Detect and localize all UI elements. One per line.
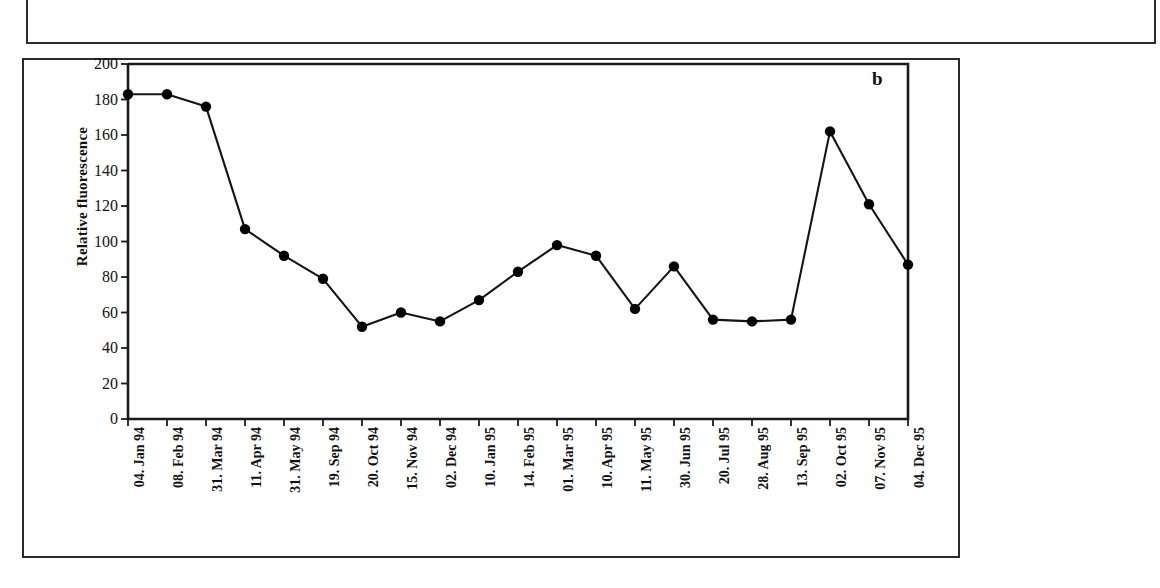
x-axis-tick-label: 02. Dec 94: [446, 427, 458, 537]
x-axis-tick-label: 30. Jun 95: [680, 427, 692, 537]
x-axis-tick-label: 14. Feb 95: [524, 427, 536, 537]
x-axis-tick-label: 13. Sep 95: [797, 427, 809, 537]
x-axis-tick-label: 15. Nov 94: [407, 427, 419, 537]
x-axis-tick-label: 19. Sep 94: [329, 427, 341, 537]
x-axis-tick-label: 01. Mar 95: [563, 427, 575, 537]
x-axis-tick-label: 10. Jan 95: [485, 427, 497, 537]
x-axis-tick-label: 20. Oct 94: [368, 427, 380, 537]
x-axis-tick-label: 28. Aug 95: [758, 427, 770, 537]
x-axis-tick-label: 11. Apr 94: [251, 427, 263, 537]
x-axis-tick-label: 04. Dec 95: [914, 427, 926, 537]
x-axis-tick-label: 31. May 94: [290, 427, 302, 537]
panel-letter-label: b: [872, 68, 883, 90]
x-axis-tick-label: 31. Mar 94: [212, 427, 224, 537]
x-axis-tick-label: 08. Feb 94: [173, 427, 185, 537]
x-axis-tick-label: 10. Apr 95: [602, 427, 614, 537]
x-axis-tick-label: 02. Oct 95: [836, 427, 848, 537]
x-axis-tick-label: 07. Nov 95: [875, 427, 887, 537]
x-axis-tick-label: 11. May 95: [641, 427, 653, 537]
x-axis-tick-label: 04. Jan 94: [134, 427, 146, 537]
x-axis-tick-label: 20. Jul 95: [719, 427, 731, 537]
